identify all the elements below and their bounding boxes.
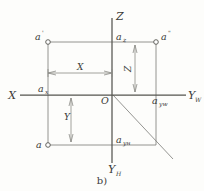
point-label-a-double-prime: a — [161, 31, 167, 42]
marker-a-prime — [46, 40, 51, 45]
point-label-ayh-subscript: yн — [122, 139, 130, 147]
dimension-label-x: X — [76, 62, 84, 72]
dimension-label-y: Y — [64, 112, 71, 122]
point-label-a: a — [36, 139, 42, 150]
projection-diagram: Z X Y W Y H a ' a z a " a x O a yw a a y… — [0, 0, 204, 191]
point-label-ax: a — [38, 83, 44, 94]
axis-label-z: Z — [115, 10, 124, 23]
dimension-z-group — [133, 45, 137, 92]
point-label-ayh: a — [116, 134, 122, 145]
point-label-ayw-subscript: yw — [158, 100, 168, 108]
marker-a-double-prime — [154, 40, 159, 45]
point-label-ax-subscript: x — [45, 88, 49, 95]
point-label-a-double-prime-mark: " — [168, 29, 171, 36]
dimension-label-z: Z — [123, 65, 133, 73]
point-markers — [46, 40, 159, 148]
axis-label-x: X — [7, 89, 17, 102]
point-label-ayw: a — [152, 95, 158, 106]
figure-caption: b) — [97, 175, 107, 186]
axis-label-yw-subscript: W — [195, 96, 202, 103]
axis-label-yh-subscript: H — [115, 170, 122, 177]
point-label-az: a — [116, 31, 122, 42]
point-label-origin: O — [101, 95, 109, 106]
point-label-a-prime-mark: ' — [42, 29, 44, 36]
marker-a — [46, 143, 51, 148]
point-label-a-prime: a — [35, 31, 41, 42]
